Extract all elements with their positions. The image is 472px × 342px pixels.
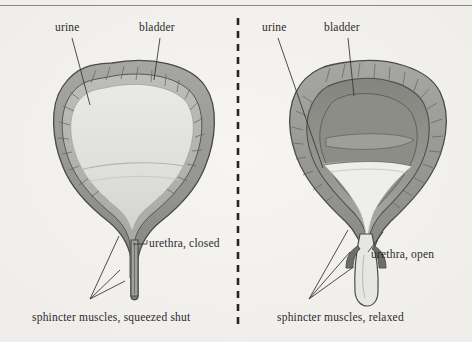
left-label-urine: urine xyxy=(55,21,80,33)
bladder-illustration-canvas xyxy=(0,0,472,342)
left-label-urethra: urethra, closed xyxy=(149,237,220,249)
right-label-urine: urine xyxy=(262,21,287,33)
right-label-bladder: bladder xyxy=(324,21,360,33)
right-urethra-open xyxy=(355,234,378,306)
left-label-bladder: bladder xyxy=(139,21,175,33)
left-label-sphincter: sphincter muscles, squeezed shut xyxy=(32,311,190,323)
right-label-urethra: urethra, open xyxy=(371,248,434,260)
bladder-diagram-figure: urine bladder urethra, closed sphincter … xyxy=(0,0,472,342)
right-label-sphincter: sphincter muscles, relaxed xyxy=(277,311,404,323)
